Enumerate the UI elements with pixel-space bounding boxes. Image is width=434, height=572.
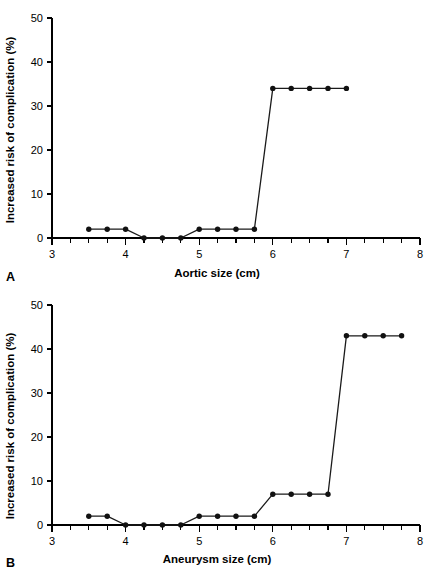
- x-tick-label: 7: [343, 535, 349, 547]
- data-point-marker: [325, 492, 330, 497]
- data-point-marker: [86, 514, 91, 519]
- data-point-marker: [141, 235, 146, 240]
- y-tick-label: 40: [31, 343, 43, 355]
- x-tick-label: 3: [49, 535, 55, 547]
- chart-b-y-axis-title: Increased risk of complication (%): [4, 333, 16, 520]
- chart-panel-b: 345678 01020304050 Aneurysm size (cm) In…: [0, 286, 434, 572]
- data-point-marker: [215, 227, 220, 232]
- data-point-marker: [197, 227, 202, 232]
- chart-panel-a: 345678 01020304050 Aortic size (cm) Incr…: [0, 0, 434, 286]
- data-point-marker: [197, 514, 202, 519]
- data-point-marker: [344, 333, 349, 338]
- panel-letter-a: A: [6, 270, 15, 284]
- x-tick-label: 5: [196, 248, 202, 260]
- data-point-marker: [141, 522, 146, 527]
- x-tick-label: 4: [123, 248, 129, 260]
- data-point-marker: [123, 227, 128, 232]
- y-tick-label: 20: [31, 144, 43, 156]
- data-point-marker: [289, 86, 294, 91]
- data-point-marker: [289, 492, 294, 497]
- data-point-marker: [215, 514, 220, 519]
- y-tick-label: 50: [31, 299, 43, 311]
- chart-b-series: [86, 333, 404, 528]
- data-point-marker: [160, 522, 165, 527]
- data-point-marker: [233, 227, 238, 232]
- data-point-marker: [325, 86, 330, 91]
- chart-a-y-axis-title: Increased risk of complication (%): [4, 37, 16, 224]
- y-tick-label: 20: [31, 431, 43, 443]
- chart-a-canvas: 345678 01020304050 Aortic size (cm) Incr…: [0, 0, 434, 286]
- x-tick-label: 5: [196, 535, 202, 547]
- chart-b-y-ticks: [47, 305, 52, 525]
- data-point-marker: [105, 514, 110, 519]
- chart-b-y-tick-labels: 01020304050: [31, 299, 43, 531]
- y-tick-label: 50: [31, 12, 43, 24]
- chart-a-axes: [52, 18, 420, 238]
- data-point-marker: [160, 235, 165, 240]
- data-point-marker: [344, 86, 349, 91]
- data-point-marker: [123, 522, 128, 527]
- y-tick-label: 0: [37, 232, 43, 244]
- y-tick-label: 30: [31, 100, 43, 112]
- x-tick-label: 3: [49, 248, 55, 260]
- data-point-marker: [270, 86, 275, 91]
- x-tick-label: 8: [417, 248, 423, 260]
- data-point-marker: [399, 333, 404, 338]
- data-point-marker: [178, 522, 183, 527]
- data-point-marker: [86, 227, 91, 232]
- data-point-marker: [252, 514, 257, 519]
- x-tick-label: 6: [270, 535, 276, 547]
- chart-a-y-ticks: [47, 18, 52, 238]
- chart-a-x-axis-title: Aortic size (cm): [174, 267, 260, 279]
- data-point-marker: [178, 235, 183, 240]
- data-point-marker: [252, 227, 257, 232]
- x-tick-label: 8: [417, 535, 423, 547]
- chart-a-x-ticks: [52, 238, 420, 245]
- x-tick-label: 7: [343, 248, 349, 260]
- chart-b-x-axis-title: Aneurysm size (cm): [163, 553, 272, 565]
- y-tick-label: 10: [31, 475, 43, 487]
- data-point-marker: [270, 492, 275, 497]
- data-point-marker: [105, 227, 110, 232]
- chart-b-x-ticks: [52, 525, 420, 532]
- data-point-marker: [233, 514, 238, 519]
- chart-a-y-tick-labels: 01020304050: [31, 12, 43, 244]
- y-tick-label: 30: [31, 387, 43, 399]
- chart-b-canvas: 345678 01020304050 Aneurysm size (cm) In…: [0, 286, 434, 572]
- figure-two-panel-line-charts: 345678 01020304050 Aortic size (cm) Incr…: [0, 0, 434, 572]
- y-tick-label: 40: [31, 56, 43, 68]
- chart-a-x-tick-labels: 345678: [49, 248, 423, 260]
- data-point-marker: [381, 333, 386, 338]
- panel-letter-b: B: [6, 556, 15, 570]
- chart-a-series: [86, 86, 349, 241]
- data-point-marker: [362, 333, 367, 338]
- chart-b-x-tick-labels: 345678: [49, 535, 423, 547]
- x-tick-label: 4: [123, 535, 129, 547]
- data-point-marker: [307, 492, 312, 497]
- y-tick-label: 10: [31, 188, 43, 200]
- data-point-marker: [307, 86, 312, 91]
- x-tick-label: 6: [270, 248, 276, 260]
- y-tick-label: 0: [37, 519, 43, 531]
